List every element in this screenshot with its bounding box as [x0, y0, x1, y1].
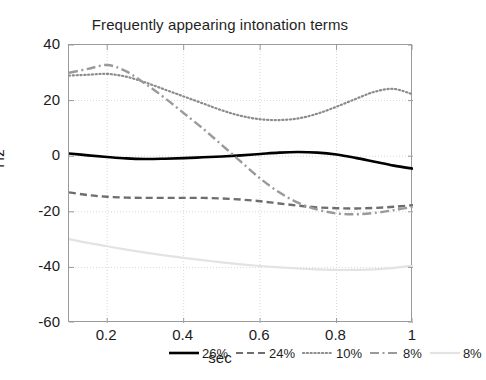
legend-item-2[interactable]: 10%	[301, 346, 368, 361]
series-line-4	[69, 239, 413, 270]
y-tick-label: -20	[2, 202, 60, 219]
legend-line-swatch	[234, 347, 268, 359]
legend-item-label: 26%	[202, 346, 228, 361]
legend-line-swatch	[368, 347, 402, 359]
y-tick-label: 20	[2, 91, 60, 108]
series-line-2	[69, 74, 413, 120]
legend-item-1[interactable]: 24%	[234, 346, 301, 361]
series-line-3	[69, 65, 413, 214]
legend-item-0[interactable]: 26%	[167, 346, 234, 361]
y-tick-label: -60	[2, 313, 60, 330]
plot-canvas	[69, 45, 413, 323]
y-tick-label: -40	[2, 257, 60, 274]
legend-item-4[interactable]: 8%	[428, 346, 486, 361]
legend-line-swatch	[167, 347, 201, 359]
x-tick-label: 0.4	[153, 326, 213, 343]
series-line-1	[69, 192, 413, 208]
x-tick-label: 1	[382, 326, 442, 343]
y-tick-label: 40	[2, 35, 60, 52]
x-tick-label: 0.2	[76, 326, 136, 343]
chart-title: Frequently appearing intonation terms	[0, 16, 440, 33]
legend-item-3[interactable]: 8%	[368, 346, 428, 361]
legend-item-label: 10%	[336, 346, 362, 361]
legend-line-swatch	[301, 347, 335, 359]
chart-legend: 26%24%10%8%8%	[167, 345, 486, 361]
legend-line-swatch	[428, 347, 462, 359]
legend-item-label: 8%	[403, 346, 422, 361]
plot-area: 26%24%10%8%8%	[68, 44, 412, 322]
legend-item-label: 24%	[269, 346, 295, 361]
y-tick-label: 0	[2, 146, 60, 163]
legend-item-label: 8%	[463, 346, 482, 361]
x-tick-label: 0.6	[229, 326, 289, 343]
x-tick-label: 0.8	[306, 326, 366, 343]
